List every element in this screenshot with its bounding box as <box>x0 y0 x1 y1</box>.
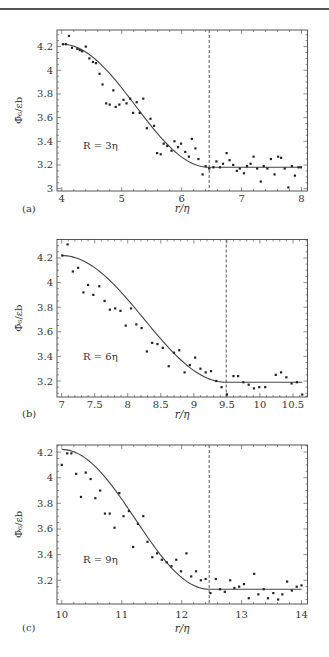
data-point <box>115 106 117 108</box>
data-point <box>151 556 153 558</box>
x-tick-label: 8 <box>125 399 131 410</box>
plot-frame <box>57 240 308 398</box>
data-point <box>224 591 226 593</box>
data-point <box>104 513 106 515</box>
data-point <box>194 357 196 359</box>
data-point <box>243 172 245 174</box>
data-point <box>66 243 68 245</box>
panel-label: (a) <box>22 203 36 214</box>
y-tick-label: 3.8 <box>37 498 53 509</box>
data-point <box>82 291 84 293</box>
data-point <box>296 586 298 588</box>
data-point <box>281 593 283 595</box>
data-point <box>228 159 230 161</box>
data-point <box>273 173 275 175</box>
data-point <box>122 99 124 101</box>
data-point <box>300 584 302 586</box>
data-point <box>89 478 91 480</box>
data-point <box>118 492 120 494</box>
data-point <box>88 57 90 59</box>
data-point <box>215 380 217 382</box>
data-point <box>205 165 207 167</box>
data-point <box>178 349 180 351</box>
data-point <box>253 387 255 389</box>
data-point <box>190 575 192 577</box>
data-point <box>61 464 63 466</box>
data-point <box>166 561 168 563</box>
data-point <box>238 586 240 588</box>
data-point <box>87 284 89 286</box>
data-point <box>113 527 115 529</box>
data-point <box>156 152 158 154</box>
data-point <box>185 552 187 554</box>
data-point <box>139 112 141 114</box>
data-point <box>219 166 221 168</box>
figure: 4567833.23.43.63.844.2Φ̄₆/εbr/η(a)R = 3η… <box>0 0 329 657</box>
y-tick-label: 3.2 <box>37 376 53 387</box>
data-point <box>225 152 227 154</box>
x-tick-label: 5 <box>119 193 125 204</box>
data-point <box>109 513 111 515</box>
chart-panel-a: 4567833.23.43.63.844.2Φ̄₆/εbr/η(a)R = 3η <box>13 30 308 214</box>
x-tick-label: 7.5 <box>87 399 103 410</box>
data-point <box>272 592 274 594</box>
data-point <box>199 368 201 370</box>
y-tick-label: 3 <box>47 183 53 194</box>
data-point <box>291 589 293 591</box>
data-point <box>101 83 103 85</box>
data-point <box>68 35 70 37</box>
data-point <box>162 347 164 349</box>
data-point <box>125 102 127 104</box>
data-point <box>146 541 148 543</box>
plot-frame <box>57 445 308 604</box>
y-tick-label: 4 <box>47 65 53 76</box>
x-tick-label: 4 <box>59 193 65 204</box>
data-point <box>141 327 143 329</box>
data-point <box>208 167 210 169</box>
data-point <box>61 254 63 256</box>
y-tick-label: 3.6 <box>37 326 53 337</box>
data-point <box>246 165 248 167</box>
data-point <box>263 588 265 590</box>
data-point <box>264 386 266 388</box>
x-tick-label: 13 <box>235 609 248 620</box>
chart-panel-c: 10111213143.23.43.63.844.2Φ̄₆/εbr/η(c)R … <box>13 445 308 634</box>
data-point <box>170 150 172 152</box>
data-point <box>291 382 293 384</box>
data-point <box>277 156 279 158</box>
x-tick-label: 11 <box>115 609 128 620</box>
panel-label: (b) <box>22 408 36 419</box>
data-point <box>119 310 121 312</box>
data-point <box>132 112 134 114</box>
y-tick-label: 3.8 <box>37 88 53 99</box>
data-point <box>173 352 175 354</box>
data-point <box>137 523 139 525</box>
data-point <box>94 497 96 499</box>
data-point <box>260 180 262 182</box>
data-point <box>109 309 111 311</box>
data-point <box>286 580 288 582</box>
y-tick-label: 3.6 <box>37 523 53 534</box>
data-point <box>75 473 77 475</box>
y-tick-label: 3.2 <box>37 575 53 586</box>
data-point <box>170 565 172 567</box>
data-point <box>161 559 163 561</box>
data-point <box>243 583 245 585</box>
data-point <box>136 101 138 103</box>
data-point <box>184 151 186 153</box>
data-point <box>163 143 165 145</box>
data-point <box>263 165 265 167</box>
data-point <box>233 587 235 589</box>
data-point <box>146 127 148 129</box>
data-point <box>95 62 97 64</box>
data-point <box>237 375 239 377</box>
data-point <box>258 386 260 388</box>
y-tick-label: 4.2 <box>37 41 53 52</box>
data-point <box>128 510 130 512</box>
data-point <box>220 386 222 388</box>
data-point <box>112 89 114 91</box>
fit-curve <box>62 256 303 383</box>
x-tick-label: 10 <box>55 609 68 620</box>
data-point <box>209 592 211 594</box>
data-point <box>280 371 282 373</box>
